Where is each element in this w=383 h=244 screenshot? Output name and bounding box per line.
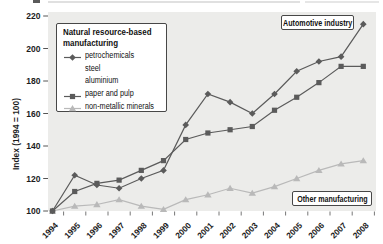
legend: Natural resource-based manufacturing pet… [56, 23, 167, 112]
legend-title: Natural resource-based manufacturing [63, 27, 164, 49]
square-marker-icon [250, 124, 255, 129]
annotation-other-label: Other manufacturing [297, 194, 367, 204]
legend-item-aluminium: aluminium [63, 74, 164, 87]
x-tick-label: 1995 [62, 220, 82, 240]
y-tick-label: 220 [26, 11, 40, 21]
x-tick-label: 1996 [84, 220, 104, 240]
square-marker-icon [228, 127, 233, 132]
x-tick-label: 2008 [351, 220, 371, 240]
legend-item-petrochemicals: petrochemicals [63, 49, 164, 62]
legend-item-label: steel [85, 63, 100, 73]
legend-item-label: paper and pulp [85, 88, 134, 98]
legend-item-label: aluminium [85, 75, 118, 85]
square-marker-icon [316, 80, 321, 85]
annotation-automotive-label: Automotive industry [283, 18, 352, 28]
x-tick-label: 2004 [262, 220, 282, 240]
y-tick-label: 140 [26, 141, 40, 151]
square-marker-icon [161, 158, 166, 163]
x-tick-label: 2001 [195, 220, 215, 240]
square-marker-icon [339, 64, 344, 69]
y-tick-label: 180 [26, 76, 40, 86]
no-marker [63, 62, 82, 73]
x-tick-label: 1994 [40, 220, 60, 240]
legend-item-label: petrochemicals [85, 50, 134, 60]
x-tick-label: 2006 [306, 220, 326, 240]
y-tick-label: 200 [26, 44, 40, 54]
x-tick-label: 1998 [129, 220, 149, 240]
square-marker-icon [361, 64, 366, 69]
x-tick-label: 2003 [240, 220, 260, 240]
y-axis-title: Index (1994 = 100) [11, 98, 21, 170]
square-marker-icon [70, 93, 75, 98]
x-tick-label: 2005 [284, 220, 304, 240]
square-marker-icon [205, 130, 210, 135]
square-marker-icon [72, 189, 77, 194]
diamond-marker-icon [63, 49, 82, 60]
no-marker [63, 75, 82, 86]
legend-title-line2: manufacturing [63, 38, 118, 49]
square-marker-icon [63, 88, 82, 99]
square-marker-icon [183, 137, 188, 142]
y-tick-label: 120 [26, 174, 40, 184]
square-marker-icon [117, 178, 122, 183]
x-tick-label: 2000 [173, 220, 193, 240]
legend-item-paper-and-pulp: paper and pulp [63, 87, 164, 100]
y-tick-label: 160 [26, 109, 40, 119]
legend-item-non-metallic-minerals: non-metallic minerals [63, 99, 164, 112]
x-tick-label: 1999 [151, 220, 171, 240]
y-tick-label: 100 [26, 206, 40, 216]
square-marker-icon [294, 95, 299, 100]
square-marker-icon [139, 168, 144, 173]
legend-title-line1: Natural resource-based [63, 27, 151, 38]
legend-item-steel: steel [63, 61, 164, 74]
annotation-other-manufacturing: Other manufacturing [292, 191, 372, 206]
x-tick-label: 1997 [106, 220, 126, 240]
diamond-marker-icon [69, 55, 76, 62]
square-marker-icon [272, 108, 277, 113]
legend-item-label: non-metallic minerals [85, 101, 154, 111]
annotation-automotive-industry: Automotive industry [281, 15, 354, 30]
x-tick-label: 2007 [328, 220, 348, 240]
triangle-marker-icon [63, 100, 82, 111]
x-tick-label: 2002 [217, 220, 237, 240]
